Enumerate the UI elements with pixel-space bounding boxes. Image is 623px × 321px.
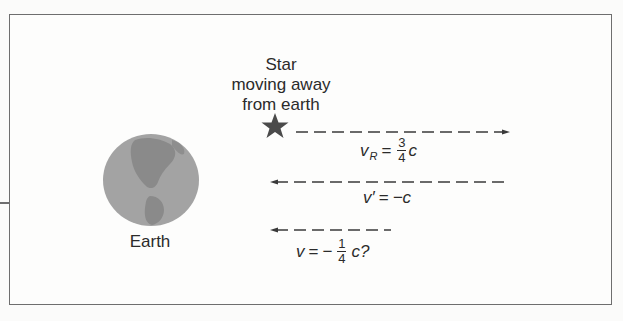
eq-suffix: c? [351,242,369,262]
star-label: Star moving away from earth [221,55,341,115]
eq-suffix: c [408,141,417,161]
star-label-line-3: from earth [221,95,341,115]
eq-subscript: R [370,150,378,162]
diagram-graphics [0,0,623,321]
eq-fraction: 1 4 [337,238,346,265]
eq-equals: = [379,188,389,208]
eq-value: −c [393,188,411,208]
eq-numerator: 1 [338,238,345,250]
equation-star-velocity: v R = 3 4 c [360,137,417,164]
star-icon [262,113,289,138]
star-label-line-2: moving away [221,75,341,95]
eq-equals: = [309,242,319,262]
eq-fraction: 3 4 [397,137,406,164]
eq-variable: v′ [363,188,375,208]
eq-numerator: 3 [398,137,405,149]
equation-light-star-frame: v′ = −c [363,188,411,208]
eq-equals: = [381,141,391,161]
earth-label: Earth [110,232,190,252]
eq-denominator: 4 [398,152,405,164]
star-label-line-1: Star [221,55,341,75]
eq-denominator: 4 [338,253,345,265]
earth-globe-icon [103,134,199,226]
arrow-light-earth-frame [270,228,391,233]
equation-light-earth-frame: v = − 1 4 c? [296,238,369,265]
arrow-light-star-frame [270,180,507,185]
eq-variable: v [360,141,369,161]
eq-sign: − [322,242,332,262]
eq-variable: v [296,242,305,262]
arrow-star-velocity [296,130,510,135]
